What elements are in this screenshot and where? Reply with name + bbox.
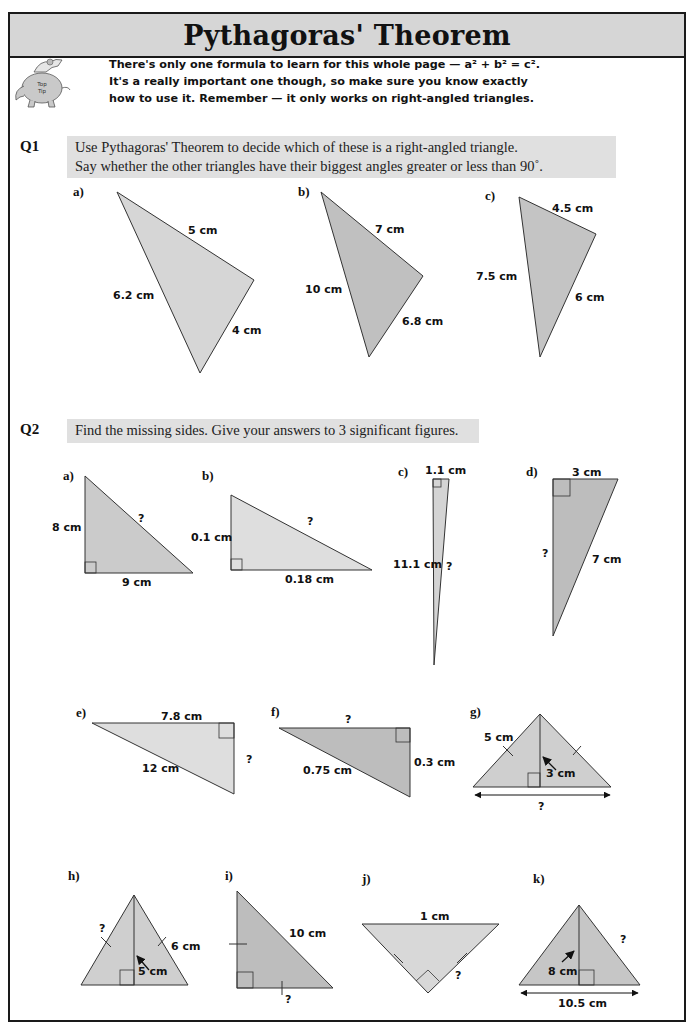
q2-triangle-c: c) 1.1 cm 11.1 cm ? [393,464,466,665]
svg-text:1.1 cm: 1.1 cm [425,464,466,477]
svg-text:a): a) [63,468,74,483]
q2-triangle-a: a) 8 cm 9 cm ? [52,468,193,589]
diagrams: a) 5 cm 6.2 cm 4 cm b) 7 cm 10 cm 6.8 cm… [0,0,689,1027]
q2-triangle-b: b) 0.1 cm 0.18 cm ? [191,468,372,586]
q2-triangle-f: f) ? 0.75 cm 0.3 cm [271,704,455,797]
svg-text:k): k) [533,871,545,886]
svg-text:0.3 cm: 0.3 cm [414,756,455,769]
svg-text:3 cm: 3 cm [546,767,575,780]
svg-text:f): f) [271,704,280,719]
svg-text:0.18 cm: 0.18 cm [285,573,334,586]
q1-triangle-c: c) 4.5 cm 7.5 cm 6 cm [476,188,604,357]
q2-triangle-e: e) 7.8 cm 12 cm ? [76,705,252,794]
svg-text:0.75 cm: 0.75 cm [303,764,352,777]
q2-triangle-i: i) 10 cm ? [225,868,333,1006]
svg-text:6.2 cm: 6.2 cm [113,289,154,302]
svg-text:6 cm: 6 cm [171,940,200,953]
svg-text:i): i) [225,868,233,883]
svg-text:b): b) [298,184,310,199]
svg-text:0.1 cm: 0.1 cm [191,531,232,544]
svg-text:c): c) [398,464,408,479]
svg-text:5 cm: 5 cm [484,731,513,744]
svg-text:?: ? [620,933,626,946]
svg-text:7.5 cm: 7.5 cm [476,270,517,283]
svg-text:5 cm: 5 cm [188,224,217,237]
svg-text:5 cm: 5 cm [138,965,167,978]
svg-text:7.8 cm: 7.8 cm [161,710,202,723]
svg-text:10 cm: 10 cm [289,927,326,940]
q2-triangle-h: h) ? 6 cm 5 cm [68,868,200,985]
svg-text:?: ? [345,713,351,726]
svg-text:?: ? [542,547,548,560]
svg-text:9 cm: 9 cm [122,576,151,589]
svg-text:g): g) [470,704,481,719]
svg-text:7 cm: 7 cm [375,223,404,236]
svg-text:?: ? [99,922,105,935]
q1-triangle-a: a) 5 cm 6.2 cm 4 cm [73,184,261,373]
q2-triangle-d: d) 3 cm ? 7 cm [526,464,621,636]
svg-text:1 cm: 1 cm [420,910,449,923]
svg-text:j): j) [361,871,371,886]
svg-text:c): c) [485,188,495,203]
svg-text:3 cm: 3 cm [572,466,601,479]
svg-text:4.5 cm: 4.5 cm [552,202,593,215]
svg-text:11.1 cm: 11.1 cm [393,558,442,571]
svg-text:?: ? [138,512,144,525]
svg-text:12 cm: 12 cm [142,762,179,775]
svg-text:a): a) [73,184,84,199]
q1-triangle-b: b) 7 cm 10 cm 6.8 cm [298,184,443,357]
svg-text:d): d) [526,464,538,479]
svg-text:4 cm: 4 cm [232,324,261,337]
svg-text:h): h) [68,868,80,883]
q2-triangle-j: j) 1 cm ? [361,871,499,993]
svg-text:6 cm: 6 cm [575,291,604,304]
svg-text:7 cm: 7 cm [592,553,621,566]
svg-text:?: ? [446,560,452,573]
svg-text:?: ? [307,515,313,528]
svg-text:b): b) [202,468,214,483]
svg-text:?: ? [538,800,544,813]
svg-text:6.8 cm: 6.8 cm [402,315,443,328]
q2-triangle-k: k) ? 8 cm 10.5 cm [519,871,640,1010]
svg-text:10.5 cm: 10.5 cm [558,997,607,1010]
svg-text:8 cm: 8 cm [548,965,577,978]
svg-text:e): e) [76,705,86,720]
svg-text:?: ? [246,753,252,766]
svg-text:?: ? [455,969,461,982]
svg-text:?: ? [285,993,291,1006]
svg-text:8 cm: 8 cm [52,521,81,534]
svg-text:10 cm: 10 cm [305,283,342,296]
q2-triangle-g: g) 5 cm 3 cm ? [470,704,611,813]
